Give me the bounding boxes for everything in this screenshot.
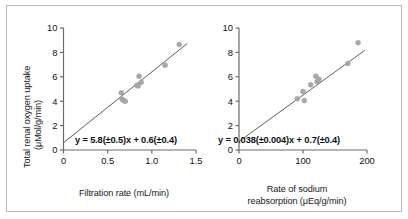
regression-line <box>64 44 188 143</box>
data-point <box>317 77 322 82</box>
data-point <box>123 99 128 104</box>
x-tick-label: 0 <box>61 155 66 166</box>
x-axis-label-left: Filtration rate (mL/min) <box>44 188 204 198</box>
y-tick-label: 10 <box>47 22 57 33</box>
x-tick-label: 1.5 <box>189 155 202 166</box>
data-point <box>119 90 124 95</box>
y-tick-label: 6 <box>228 71 233 82</box>
data-point <box>163 63 168 68</box>
x-axis-label-right-line1: Rate of sodium <box>212 184 382 194</box>
y-tick-label: 8 <box>228 47 233 58</box>
y-tick-label: 0 <box>228 144 233 155</box>
data-point <box>308 82 313 87</box>
chart-panel-right: 02468100100200y = 0.038(±0.004)x + 0.7(±… <box>204 0 408 219</box>
y-tick-label: 2 <box>52 120 57 131</box>
figure-container: Total renal oxygen uptake (μMol/g/min) 0… <box>0 0 408 219</box>
x-tick-label: 1.0 <box>145 155 158 166</box>
y-tick-label: 0 <box>52 144 57 155</box>
x-tick-label: 100 <box>295 155 311 166</box>
regression-equation: y = 5.8(±0.5)x + 0.6(±0.4) <box>75 135 177 145</box>
x-tick-label: 0.5 <box>101 155 114 166</box>
data-point <box>302 98 307 103</box>
y-tick-label: 10 <box>223 22 233 33</box>
chart-panel-left: Total renal oxygen uptake (μMol/g/min) 0… <box>0 0 204 219</box>
scatter-plot-left: 024681000.51.01.5y = 5.8(±0.5)x + 0.6(±0… <box>0 0 204 219</box>
data-point <box>139 80 144 85</box>
regression-equation: y = 0.038(±0.004)x + 0.7(±0.4) <box>218 135 340 145</box>
y-tick-label: 4 <box>52 96 57 107</box>
y-tick-label: 2 <box>228 120 233 131</box>
data-point <box>137 74 142 79</box>
y-tick-label: 6 <box>52 71 57 82</box>
x-tick-label: 0 <box>236 155 241 166</box>
y-tick-label: 4 <box>228 96 233 107</box>
data-point <box>301 89 306 94</box>
x-tick-label: 200 <box>359 155 375 166</box>
data-point <box>177 42 182 47</box>
data-point <box>295 96 300 101</box>
data-point <box>356 40 361 45</box>
x-axis-label-right-line2: reabsorption (μEq/g/min) <box>204 196 390 206</box>
y-tick-label: 8 <box>52 47 57 58</box>
data-point <box>345 61 350 66</box>
